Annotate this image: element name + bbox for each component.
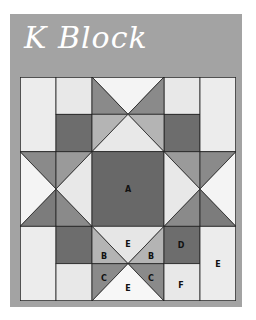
piece-label-bottom-right-dark-square: D xyxy=(178,241,185,250)
top-right-tall-rectangle xyxy=(200,77,236,152)
piece-label-bottom-right-tall-rectangle: E xyxy=(215,260,220,269)
piece-label-center-square: A xyxy=(125,185,132,194)
quilt-block-diagram: AEBBDECCEF xyxy=(20,77,236,301)
bottom-left-tall-rectangle xyxy=(20,226,56,301)
bottom-left-light-square xyxy=(56,264,92,301)
piece-label-bottom-center-left-upper-triangle: B xyxy=(101,252,107,261)
piece-label-bottom-right-light-square: F xyxy=(178,281,183,290)
block-title: K Block xyxy=(24,18,148,58)
top-right-light-square xyxy=(164,77,200,114)
top-right-dark-square xyxy=(164,114,200,151)
top-left-dark-square xyxy=(56,114,92,151)
top-left-light-square xyxy=(56,77,92,114)
top-left-tall-rectangle xyxy=(20,77,56,152)
block-panel: K Block xyxy=(10,14,242,307)
piece-label-bottom-center-right-lower-triangle: C xyxy=(148,274,154,283)
piece-label-bottom-center-bottom-triangle: E xyxy=(125,284,130,293)
quilt-svg: AEBBDECCEF xyxy=(20,77,236,301)
piece-label-bottom-center-right-upper-triangle: B xyxy=(148,252,154,261)
piece-label-bottom-center-left-lower-triangle: C xyxy=(101,274,107,283)
piece-label-bottom-center-top-triangle: E xyxy=(125,240,130,249)
bottom-left-dark-square xyxy=(56,226,92,263)
